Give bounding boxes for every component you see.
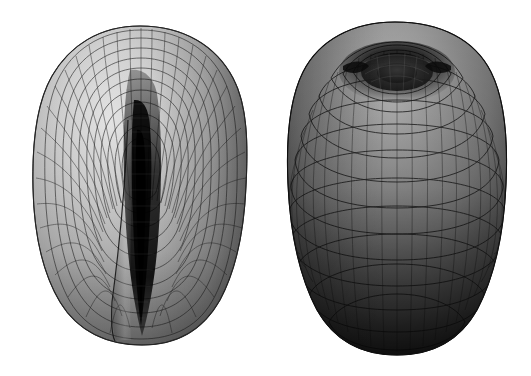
surface-plot-right (265, 0, 531, 376)
surface-plot-left (0, 0, 265, 376)
right-surface-svg (265, 0, 531, 376)
right-global-shading (265, 0, 531, 376)
left-surface-svg (0, 0, 265, 376)
figure-canvas (0, 0, 531, 376)
